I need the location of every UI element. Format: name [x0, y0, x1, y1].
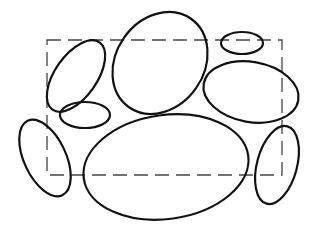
diagram-canvas — [0, 0, 316, 229]
diagram-svg — [0, 0, 316, 229]
ellipse-lower-right — [247, 121, 306, 209]
ellipse-small-mid-left — [60, 102, 110, 128]
ellipse-small-top-right — [221, 32, 263, 54]
ellipse-mid-right — [199, 54, 304, 130]
ellipse-upper-center-large — [93, 0, 227, 132]
ellipse-group — [9, 0, 307, 229]
